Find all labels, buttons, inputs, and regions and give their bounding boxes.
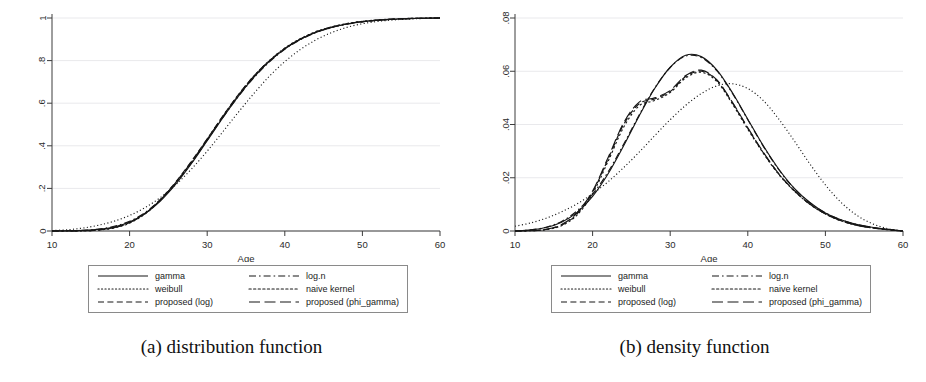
legend-item: naive kernel [248, 284, 399, 294]
series-line [515, 84, 903, 231]
y-tick-label: .04 [500, 118, 511, 131]
chart-svg-b: 0.02.04.06.08102030405060Age [463, 0, 926, 262]
x-tick-label: 20 [124, 239, 135, 250]
y-tick-label: .08 [500, 11, 511, 24]
legend-label: gamma [155, 271, 185, 281]
legend-line-swatch [560, 297, 612, 307]
legend-label: weibull [155, 284, 183, 294]
legend-label: proposed (phi_gamma) [306, 297, 399, 307]
y-tick-label: .2 [37, 184, 48, 192]
x-axis-title: Age [238, 253, 255, 262]
series-line [52, 18, 440, 231]
plot-area-a: 0.2.4.6.81102030405060Age [0, 0, 463, 262]
legend-b: gammalog.nweibullnaive kernelproposed (l… [551, 265, 871, 313]
series-line [515, 72, 903, 231]
legend-item: log.n [248, 271, 399, 281]
caption-a: (a) distribution function [0, 336, 463, 358]
legend-line-swatch [711, 271, 763, 281]
y-tick-label: .06 [500, 65, 511, 78]
legend-item: proposed (phi_gamma) [711, 297, 862, 307]
series-line [515, 55, 903, 231]
legend-line-swatch [711, 284, 763, 294]
legend-line-swatch [97, 297, 149, 307]
legend-label: proposed (log) [155, 297, 213, 307]
legend-label: naive kernel [769, 284, 818, 294]
y-tick-label: 1 [37, 15, 48, 20]
series-line [52, 18, 440, 231]
legend-line-swatch [560, 271, 612, 281]
legend-label: log.n [306, 271, 326, 281]
y-tick-label: .4 [37, 142, 48, 150]
y-tick-label: .8 [37, 57, 48, 65]
x-tick-label: 10 [47, 239, 58, 250]
y-tick-label: 0 [37, 228, 48, 233]
legend-label: proposed (log) [618, 297, 676, 307]
legend-label: gamma [618, 271, 648, 281]
series-line [515, 71, 903, 231]
legend-line-swatch [248, 284, 300, 294]
legend-label: naive kernel [306, 284, 355, 294]
y-tick-label: .6 [37, 99, 48, 107]
series-line [515, 54, 903, 231]
panel-density-function: 0.02.04.06.08102030405060Age gammalog.nw… [463, 0, 926, 382]
legend-line-swatch [711, 297, 763, 307]
series-line [515, 70, 903, 231]
x-tick-label: 20 [587, 239, 598, 250]
y-tick-label: .02 [500, 171, 511, 184]
legend-item: proposed (log) [560, 297, 705, 307]
legend-line-swatch [560, 284, 612, 294]
legend-a: gammalog.nweibullnaive kernelproposed (l… [88, 265, 408, 313]
figure-container: 0.2.4.6.81102030405060Age gammalog.nweib… [0, 0, 926, 382]
legend-item: log.n [711, 271, 862, 281]
series-line [52, 18, 440, 231]
legend-label: log.n [769, 271, 789, 281]
x-tick-label: 60 [435, 239, 446, 250]
legend-label: proposed (phi_gamma) [769, 297, 862, 307]
x-axis-title: Age [701, 253, 718, 262]
x-tick-label: 50 [357, 239, 368, 250]
legend-label: weibull [618, 284, 646, 294]
caption-b: (b) density function [463, 336, 926, 358]
x-tick-label: 30 [202, 239, 213, 250]
x-tick-label: 10 [510, 239, 521, 250]
legend-item: proposed (log) [97, 297, 242, 307]
legend-item: gamma [560, 271, 705, 281]
legend-item: naive kernel [711, 284, 862, 294]
legend-item: weibull [560, 284, 705, 294]
x-tick-label: 40 [280, 239, 291, 250]
x-tick-label: 40 [743, 239, 754, 250]
series-line [52, 18, 440, 231]
x-tick-label: 50 [820, 239, 831, 250]
legend-line-swatch [248, 271, 300, 281]
legend-item: weibull [97, 284, 242, 294]
legend-line-swatch [248, 297, 300, 307]
legend-item: gamma [97, 271, 242, 281]
legend-item: proposed (phi_gamma) [248, 297, 399, 307]
legend-line-swatch [97, 284, 149, 294]
series-line [52, 18, 440, 231]
panel-distribution-function: 0.2.4.6.81102030405060Age gammalog.nweib… [0, 0, 463, 382]
x-tick-label: 30 [665, 239, 676, 250]
legend-line-swatch [97, 271, 149, 281]
y-tick-label: 0 [500, 228, 511, 233]
x-tick-label: 60 [898, 239, 909, 250]
plot-area-b: 0.02.04.06.08102030405060Age [463, 0, 926, 262]
chart-svg-a: 0.2.4.6.81102030405060Age [0, 0, 463, 262]
series-line [52, 18, 440, 231]
